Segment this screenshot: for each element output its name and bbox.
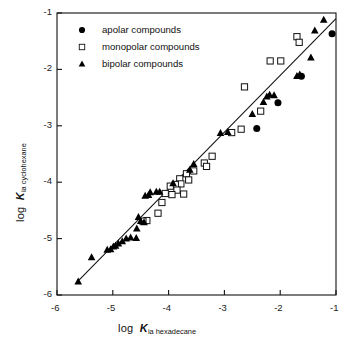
legend-marker-open-square bbox=[75, 40, 89, 54]
data-point bbox=[217, 129, 225, 136]
plot-frame bbox=[57, 13, 336, 295]
x-tick-label: -3 bbox=[218, 302, 226, 313]
data-point bbox=[88, 253, 96, 260]
data-point bbox=[320, 16, 328, 23]
x-tick-label: -1 bbox=[330, 302, 338, 313]
data-point bbox=[249, 110, 257, 117]
series-apolar bbox=[253, 30, 335, 132]
legend-label: apolar compounds bbox=[102, 24, 181, 35]
x-tick-label: -6 bbox=[51, 302, 59, 313]
data-point bbox=[181, 191, 187, 197]
chart-figure: -6-5-4-3-2-1 -1-2-3-4-5-6 log Kia hexade… bbox=[0, 0, 341, 348]
data-point bbox=[162, 190, 168, 196]
data-point bbox=[133, 224, 141, 231]
y-axis-label: log Kia cyclohexane bbox=[14, 143, 28, 222]
data-point bbox=[311, 26, 319, 33]
legend-marker-filled-triangle bbox=[75, 57, 89, 71]
axis-ticks bbox=[57, 13, 336, 295]
data-point bbox=[258, 108, 264, 114]
data-point bbox=[253, 125, 260, 132]
data-point bbox=[296, 39, 302, 45]
x-tick-label: -5 bbox=[107, 302, 115, 313]
data-point bbox=[155, 210, 161, 216]
y-tick-label: -3 bbox=[36, 119, 52, 130]
data-point bbox=[159, 199, 165, 205]
data-point bbox=[267, 58, 273, 64]
data-point bbox=[329, 30, 336, 37]
x-tick-label: -4 bbox=[163, 302, 171, 313]
y-tick-label: -6 bbox=[36, 288, 52, 299]
x-tick-label: -2 bbox=[274, 302, 282, 313]
data-point bbox=[307, 53, 315, 60]
y-tick-label: -4 bbox=[36, 175, 52, 186]
y-tick-label: -2 bbox=[36, 62, 52, 73]
legend-label: monopolar compounds bbox=[102, 41, 200, 52]
data-point bbox=[241, 84, 247, 90]
data-point bbox=[209, 153, 215, 159]
legend-marker-filled-circle bbox=[75, 23, 89, 37]
x-axis-label: log Kia hexadecane bbox=[118, 322, 196, 336]
data-point bbox=[238, 126, 244, 132]
data-point bbox=[169, 192, 175, 198]
y-tick-label: -5 bbox=[36, 232, 52, 243]
data-point bbox=[203, 163, 209, 169]
data-point bbox=[274, 99, 281, 106]
y-tick-label: -1 bbox=[36, 6, 52, 17]
data-point bbox=[186, 177, 192, 183]
data-point bbox=[278, 58, 284, 64]
data-points bbox=[74, 16, 335, 285]
series-bipolar bbox=[74, 16, 327, 285]
legend-label: bipolar compounds bbox=[102, 58, 183, 69]
